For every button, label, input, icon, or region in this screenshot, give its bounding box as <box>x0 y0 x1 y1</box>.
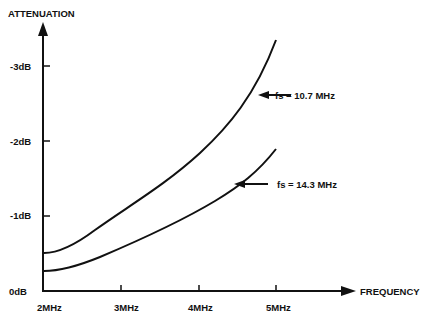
curve-fs-14-3mhz <box>44 149 276 271</box>
x-tick-label: 2MHz <box>37 302 62 313</box>
x-axis-arrow-icon <box>341 286 356 296</box>
arrow-left-icon <box>258 91 269 99</box>
attenuation-chart: ATTENUATION FREQUENCY 0dB -1dB -2dB -3dB… <box>0 0 421 319</box>
y-axis-title: ATTENUATION <box>8 8 75 19</box>
y-tick-label: -3dB <box>10 61 31 72</box>
y-tick-label: 0dB <box>9 286 27 297</box>
y-tick-label: -1dB <box>10 210 31 221</box>
y-axis-arrow-icon <box>38 22 48 36</box>
x-axis-title: FREQUENCY <box>360 286 420 297</box>
annotation-fs-10-7: fs = 10.7 MHz <box>275 90 335 101</box>
x-tick-label: 5MHz <box>266 302 291 313</box>
y-tick-label: -2dB <box>10 136 31 147</box>
annotation-fs-14-3: fs = 14.3 MHz <box>277 179 337 190</box>
x-tick-label: 4MHz <box>188 302 213 313</box>
x-tick-label: 3MHz <box>114 302 139 313</box>
curve-fs-10-7mhz <box>44 40 276 253</box>
